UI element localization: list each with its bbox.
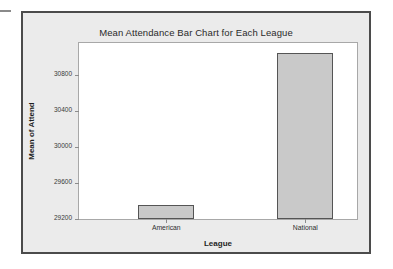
bar-american (138, 205, 194, 219)
y-tick-label: 30800 (54, 70, 72, 77)
y-tick-mark (75, 219, 79, 220)
y-tick-mark (75, 111, 79, 112)
x-axis-title: League (78, 239, 358, 248)
y-tick-label: 29600 (54, 178, 72, 185)
y-tick-label: 30000 (54, 142, 72, 149)
chart-title: Mean Attendance Bar Chart for Each Leagu… (23, 27, 369, 38)
y-axis-title: Mean of Attend (27, 102, 36, 159)
bar-national (277, 53, 333, 219)
x-category-label-national: National (293, 224, 318, 231)
plot-inner: 29200 29600 30000 30400 30800 (79, 43, 357, 219)
left-edge-dash (0, 10, 11, 12)
y-tick-mark (75, 147, 79, 148)
y-tick-mark (75, 183, 79, 184)
x-category-label-american: American (152, 224, 181, 231)
y-tick-label: 30400 (54, 106, 72, 113)
plot-area: 29200 29600 30000 30400 30800 (78, 42, 358, 220)
chart-figure-panel: Mean Attendance Bar Chart for Each Leagu… (21, 11, 371, 254)
y-tick-mark (75, 75, 79, 76)
y-tick-label: 29200 (54, 214, 72, 221)
x-tick-mark (166, 219, 167, 223)
x-tick-mark (305, 219, 306, 223)
